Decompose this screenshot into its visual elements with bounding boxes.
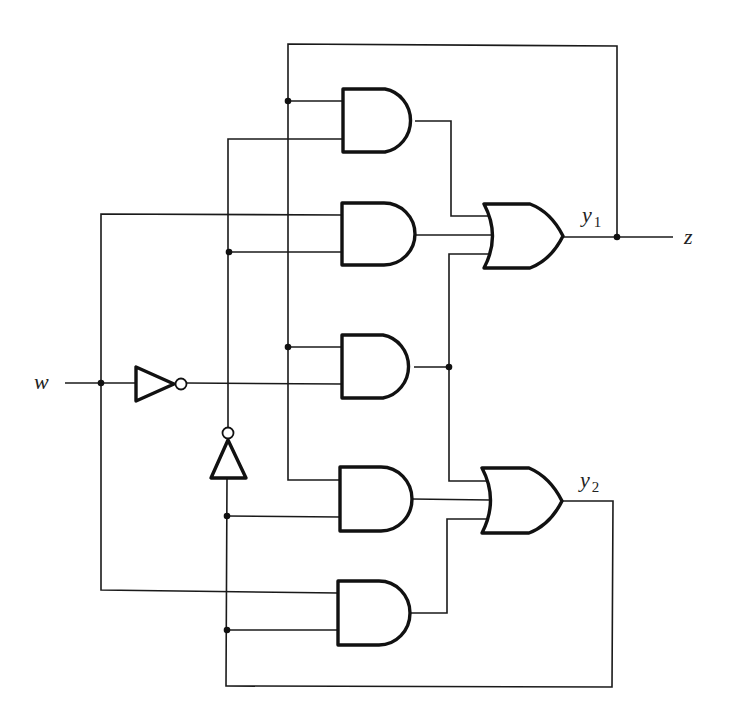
logic-circuit-diagram: w z y1 y2 bbox=[0, 0, 730, 726]
y2-label: y2 bbox=[578, 467, 599, 495]
w-to-and2-wire bbox=[101, 214, 342, 383]
junction-dot bbox=[224, 627, 231, 634]
and-gate-5 bbox=[338, 581, 410, 645]
junction-dot bbox=[446, 364, 453, 371]
y2-label-main: y bbox=[578, 467, 590, 492]
junction-dot bbox=[98, 380, 105, 387]
y2-to-and4-wire bbox=[227, 516, 340, 517]
input-w-label: w bbox=[34, 369, 49, 394]
y2-label-sub: 2 bbox=[592, 479, 600, 495]
and-gate-3 bbox=[342, 335, 409, 398]
and-gate-2 bbox=[342, 203, 415, 265]
junction-dot bbox=[285, 98, 292, 105]
output-z-label: z bbox=[683, 224, 693, 249]
and-gate-1 bbox=[343, 89, 411, 152]
not-gate-w bbox=[136, 367, 174, 401]
and-gate-4 bbox=[340, 467, 412, 531]
and3-out-wire-down bbox=[449, 367, 487, 481]
y1-label-main: y bbox=[580, 202, 592, 227]
not-gate-y2-bubble bbox=[223, 428, 234, 439]
and3-out-wire bbox=[414, 254, 488, 367]
w-bar-to-and3-wire bbox=[186, 383, 342, 384]
junction-dot bbox=[285, 344, 292, 351]
junction-dot bbox=[226, 249, 233, 256]
not-gate-y2 bbox=[211, 440, 246, 478]
junction-dot bbox=[614, 234, 621, 241]
not-gate-w-bubble bbox=[176, 379, 187, 390]
junction-dot bbox=[224, 513, 231, 520]
w-to-and5-wire bbox=[101, 383, 338, 593]
y1-label: y1 bbox=[580, 202, 601, 230]
or-gate-2 bbox=[482, 468, 562, 533]
or-gate-1 bbox=[484, 204, 563, 268]
y1-feedback-wire bbox=[288, 44, 617, 480]
y1-label-sub: 1 bbox=[594, 214, 602, 230]
and4-out-wire bbox=[412, 499, 490, 500]
and1-out-wire bbox=[415, 121, 488, 216]
and5-out-wire bbox=[410, 519, 487, 613]
